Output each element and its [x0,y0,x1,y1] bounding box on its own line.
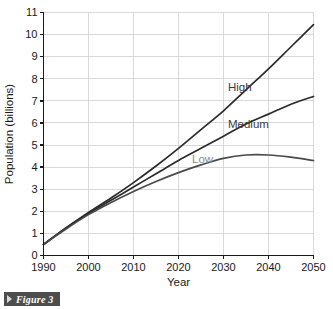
x-tick-label: 2000 [76,261,100,273]
y-tick-label: 7 [31,95,37,107]
x-tick-label: 2010 [121,261,145,273]
y-tick-label: 9 [31,50,37,62]
y-tick-label: 10 [25,28,37,40]
y-tick-label: 11 [26,6,37,18]
gridlines [44,13,314,256]
x-axis-title: Year [167,276,190,288]
x-tick-label: 2020 [166,261,190,273]
y-tick-label: 0 [31,249,37,261]
series-label-medium: Medium [228,118,269,130]
population-projection-chart: 0123456789101119902000201020202030204020… [0,0,333,309]
y-tick-label: 4 [31,161,37,173]
triangle-right-icon [7,295,12,303]
figure-caption-badge: Figure 3 [4,292,60,306]
y-tick-label: 8 [31,73,37,85]
x-tick-label: 2040 [256,261,280,273]
y-tick-label: 1 [31,227,37,239]
x-tick-label: 1990 [31,261,55,273]
axis-labels: 0123456789101119902000201020202030204020… [3,6,326,287]
figure-container: 0123456789101119902000201020202030204020… [0,0,333,309]
y-tick-label: 3 [31,183,37,195]
axes [40,13,314,260]
y-tick-label: 6 [31,117,37,129]
x-tick-label: 2050 [301,261,325,273]
figure-caption-text: Figure 3 [16,294,53,305]
y-tick-label: 5 [31,139,37,151]
series-label-low: Low [192,153,214,165]
y-axis-title: Population (billions) [3,84,15,185]
x-tick-label: 2030 [211,261,235,273]
series-label-high: High [228,81,252,93]
y-tick-label: 2 [31,205,37,217]
